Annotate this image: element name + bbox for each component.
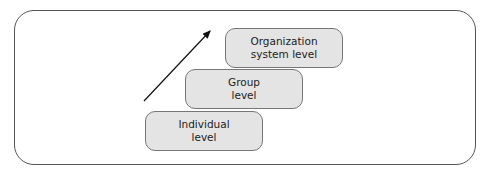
level-label-line1: Organization xyxy=(250,35,317,48)
level-label-line1: Group xyxy=(228,76,260,89)
level-label-line2: system level xyxy=(250,48,317,61)
group-level-box: Group level xyxy=(185,69,303,109)
level-label-line2: level xyxy=(178,131,229,144)
individual-level-box: Individual level xyxy=(145,111,263,151)
level-label-line2: level xyxy=(228,89,260,102)
level-label-line1: Individual xyxy=(178,118,229,131)
organization-system-level-box: Organization system level xyxy=(225,28,343,68)
